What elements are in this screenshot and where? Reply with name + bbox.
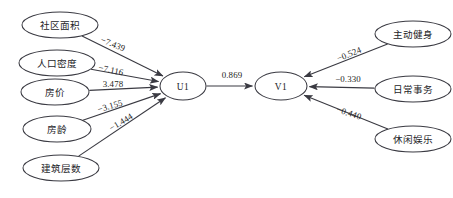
node-jzcs[interactable]: 建筑层数 — [23, 155, 99, 181]
edge-label-e8: −0.330 — [335, 74, 361, 84]
edge-weight-text: 3.478 — [103, 79, 124, 89]
edge-label-e7: −0.524 — [335, 44, 363, 63]
node-label-jzcs: 建筑层数 — [41, 163, 82, 174]
edge-label-e9: −0.440 — [335, 104, 363, 122]
node-label-U1: U1 — [177, 82, 190, 92]
node-label-fj: 房价 — [45, 87, 65, 98]
edge-weight-text: −0.524 — [335, 44, 363, 63]
edge-weight-text: −7.439 — [99, 35, 127, 54]
edge-weight-text: −0.440 — [335, 104, 363, 122]
edge-weight-text: 0.869 — [222, 70, 243, 80]
node-label-rkmd: 人口密度 — [37, 58, 78, 69]
edge-label-e4: −3.155 — [96, 98, 124, 115]
node-label-zdjs: 主动健身 — [393, 29, 434, 40]
node-label-fl: 房龄 — [47, 124, 67, 135]
path-diagram-canvas: 社区面积人口密度房价房龄建筑层数U1V1主动健身日常事务休闲娱乐 −7.439−… — [0, 0, 453, 198]
node-rkmd[interactable]: 人口密度 — [19, 50, 95, 76]
node-label-xxyl: 休闲娱乐 — [393, 134, 434, 145]
node-label-rcsw: 日常事务 — [393, 84, 434, 95]
node-fl[interactable]: 房龄 — [23, 116, 91, 142]
node-label-sqmj: 社区面积 — [40, 20, 81, 31]
edge-rcsw-to-V1 — [309, 87, 374, 88]
edge-label-e5: −1.444 — [107, 111, 134, 133]
edge-labels-layer: −7.439−7.1163.478−3.155−1.4440.869−0.524… — [96, 35, 363, 133]
edge-label-e6: 0.869 — [222, 70, 243, 80]
edge-fj-to-U1 — [89, 87, 157, 90]
edge-label-e1: −7.439 — [99, 35, 127, 54]
edge-label-e3: 3.478 — [103, 79, 124, 89]
node-U1[interactable]: U1 — [160, 72, 206, 100]
node-sqmj[interactable]: 社区面积 — [22, 12, 98, 38]
node-label-V1: V1 — [275, 82, 288, 92]
edge-weight-text: −7.116 — [98, 62, 125, 77]
edge-weight-text: −1.444 — [107, 111, 134, 133]
edge-weight-text: −3.155 — [96, 98, 124, 115]
node-V1[interactable]: V1 — [255, 72, 307, 100]
node-fj[interactable]: 房价 — [21, 79, 89, 105]
diagram-svg: 社区面积人口密度房价房龄建筑层数U1V1主动健身日常事务休闲娱乐 −7.439−… — [0, 0, 453, 198]
edge-weight-text: −0.330 — [335, 74, 361, 84]
node-rcsw[interactable]: 日常事务 — [375, 76, 451, 102]
edge-label-e2: −7.116 — [98, 62, 125, 77]
node-zdjs[interactable]: 主动健身 — [375, 21, 451, 47]
node-xxyl[interactable]: 休闲娱乐 — [375, 126, 451, 152]
